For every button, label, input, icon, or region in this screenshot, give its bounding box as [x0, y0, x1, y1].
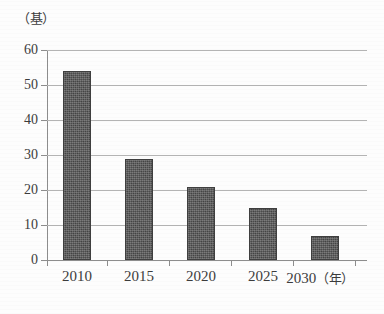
gridline-40 — [47, 120, 367, 121]
y-tick-label-10: 10 — [8, 217, 38, 233]
x-tick-mark-4 — [293, 261, 294, 266]
y-axis-tick-labels: 60 50 40 30 20 10 0 — [0, 0, 38, 314]
plot-area — [47, 50, 367, 260]
x-tick-mark-2 — [169, 261, 170, 266]
bar-2025 — [249, 208, 277, 261]
x-axis-line — [47, 260, 367, 261]
x-tick-label-2020: 2020 — [186, 268, 216, 285]
y-tick-label-0: 0 — [8, 252, 38, 268]
x-tick-mark-1 — [107, 261, 108, 266]
x-tick-label-2015: 2015 — [124, 268, 154, 285]
y-tick-label-50: 50 — [8, 77, 38, 93]
gridline-50 — [47, 85, 367, 86]
gridline-60 — [47, 50, 367, 51]
x-tick-label-2030-year: 2030 — [286, 270, 316, 286]
bar-chart-figure: （基） 60 50 40 30 20 10 0 — [0, 0, 384, 314]
x-tick-mark-0 — [47, 261, 48, 266]
y-tick-label-20: 20 — [8, 182, 38, 198]
y-tick-label-60: 60 — [8, 42, 38, 58]
x-axis-unit-label: （年） — [316, 271, 354, 286]
gridline-30 — [47, 155, 367, 156]
y-tick-label-30: 30 — [8, 147, 38, 163]
y-tick-label-40: 40 — [8, 112, 38, 128]
x-tick-label-2030: 2030（年） — [286, 268, 354, 287]
x-tick-mark-5 — [355, 261, 356, 266]
x-tick-label-2010: 2010 — [62, 268, 92, 285]
bar-2010 — [63, 71, 91, 260]
x-tick-label-2025: 2025 — [248, 268, 278, 285]
bar-2015 — [125, 159, 153, 261]
x-tick-mark-3 — [231, 261, 232, 266]
bar-2020 — [187, 187, 215, 261]
bar-2030 — [311, 236, 339, 261]
